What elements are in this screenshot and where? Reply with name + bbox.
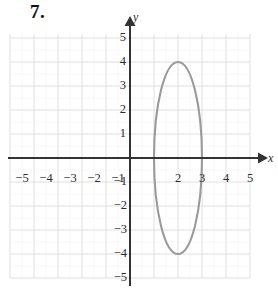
y-tick-label-3: 3 bbox=[120, 78, 126, 92]
graph-figure: 7. bbox=[0, 0, 278, 290]
x-tick-label-5: 5 bbox=[247, 171, 253, 185]
x-tick-label-neg1: −1 bbox=[111, 171, 124, 185]
x-tick-label-neg5: −5 bbox=[15, 171, 28, 185]
y-tick-label-1: 1 bbox=[120, 126, 126, 140]
x-tick-label-2: 2 bbox=[175, 171, 181, 185]
y-tick-label-neg5: −5 bbox=[114, 270, 127, 284]
x-tick-label-3: 3 bbox=[199, 171, 205, 185]
x-tick-label-neg2: −2 bbox=[87, 171, 100, 185]
y-axis-label: y bbox=[132, 10, 139, 24]
y-tick-label-neg2: −2 bbox=[114, 198, 127, 212]
x-tick-label-neg4: −4 bbox=[39, 171, 53, 185]
axis-lines bbox=[8, 26, 258, 286]
y-tick-label-2: 2 bbox=[120, 102, 126, 116]
x-axis-label: x bbox=[267, 151, 274, 165]
y-tick-label-5: 5 bbox=[120, 30, 126, 44]
y-tick-label-neg3: −3 bbox=[114, 222, 127, 236]
x-tick-label-neg3: −3 bbox=[63, 171, 76, 185]
y-tick-label-neg4: −4 bbox=[114, 246, 128, 260]
y-tick-label-4: 4 bbox=[120, 54, 127, 68]
x-axis-arrow bbox=[258, 153, 268, 164]
x-tick-label-4: 4 bbox=[223, 171, 230, 185]
coordinate-plane: x y 5 4 3 2 1 −1 −2 −3 −4 −5 −5 −4 −3 −2… bbox=[0, 0, 278, 290]
